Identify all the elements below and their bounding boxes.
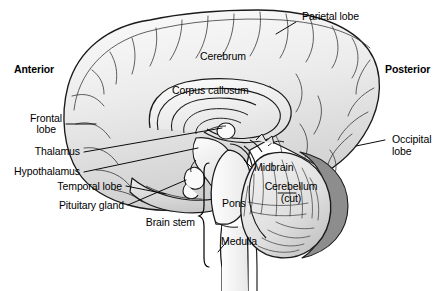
hypothalamus-label: Hypothalamus	[0, 166, 80, 178]
anterior-label: Anterior	[14, 64, 54, 76]
cerebellum-label-line2: (cut)	[255, 193, 327, 205]
brain-anatomy-diagram: Anterior Posterior Parietal lobe Cerebru…	[0, 0, 447, 291]
brain-stem-label: Brain stem	[100, 217, 195, 229]
corpus-callosum-label: Corpus callosum	[172, 85, 249, 97]
posterior-label: Posterior	[385, 64, 430, 76]
frontal-lobe-label-line2: lobe	[0, 124, 56, 136]
cerebrum-label: Cerebrum	[200, 51, 246, 63]
medulla-label: Medulla	[221, 236, 257, 248]
thalamus-label: Thalamus	[0, 146, 80, 158]
occipital-lobe-label-line2: lobe	[392, 146, 411, 158]
occipital-lobe-label-line1: Occipital	[392, 134, 431, 146]
parietal-lobe-label: Parietal lobe	[302, 11, 359, 23]
pons-label: Pons	[222, 198, 246, 210]
cerebellum-label-line1: Cerebellum	[255, 181, 327, 193]
midbrain-label: Midbrain	[254, 162, 293, 174]
temporal-lobe-label: Temporal lobe	[0, 181, 122, 193]
pituitary-gland-label: Pituitary gland	[0, 200, 124, 212]
